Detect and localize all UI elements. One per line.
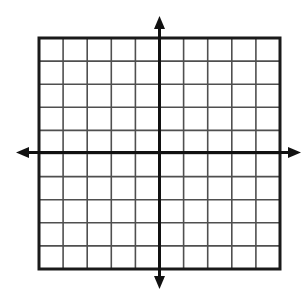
coordinate-plane-svg	[0, 0, 305, 294]
figure-background	[0, 0, 305, 294]
coordinate-grid-figure: Blank Cartesian coordinate grid	[0, 0, 305, 294]
